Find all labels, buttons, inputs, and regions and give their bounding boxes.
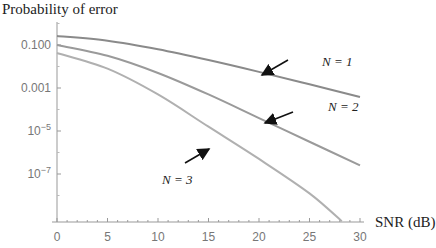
annotation-arrow-icon <box>185 149 209 163</box>
x-tick-label: 5 <box>104 230 111 244</box>
data-series <box>57 36 360 221</box>
error-probability-chart: Probability of error SNR (dB) 0.1000.001… <box>0 0 436 248</box>
x-tick-label: 30 <box>353 230 367 244</box>
axes <box>52 22 364 222</box>
annotation-arrow-icon <box>262 60 288 75</box>
series-annotation-label: N = 3 <box>161 172 193 187</box>
x-tick-label: 15 <box>202 230 216 244</box>
y-tick-label: 10−5 <box>27 122 51 138</box>
annotation-arrow-icon <box>265 112 293 123</box>
x-tick-label: 0 <box>54 230 61 244</box>
y-tick-label: 0.001 <box>21 81 51 95</box>
series-annotation-label: N = 1 <box>321 54 352 69</box>
y-tick-label: 10−7 <box>27 165 51 181</box>
series-annotation-label: N = 2 <box>327 99 359 114</box>
y-axis-ticks: 0.1000.00110−510−7 <box>21 24 61 196</box>
y-axis-title: Probability of error <box>2 1 118 17</box>
annotations: N = 1N = 2N = 3 <box>161 54 359 187</box>
y-tick-label: 0.100 <box>21 38 51 52</box>
x-tick-label: 25 <box>303 230 317 244</box>
series-line <box>57 45 360 165</box>
x-axis-title: SNR (dB) <box>375 214 435 231</box>
x-tick-label: 10 <box>151 230 165 244</box>
x-tick-label: 20 <box>252 230 266 244</box>
